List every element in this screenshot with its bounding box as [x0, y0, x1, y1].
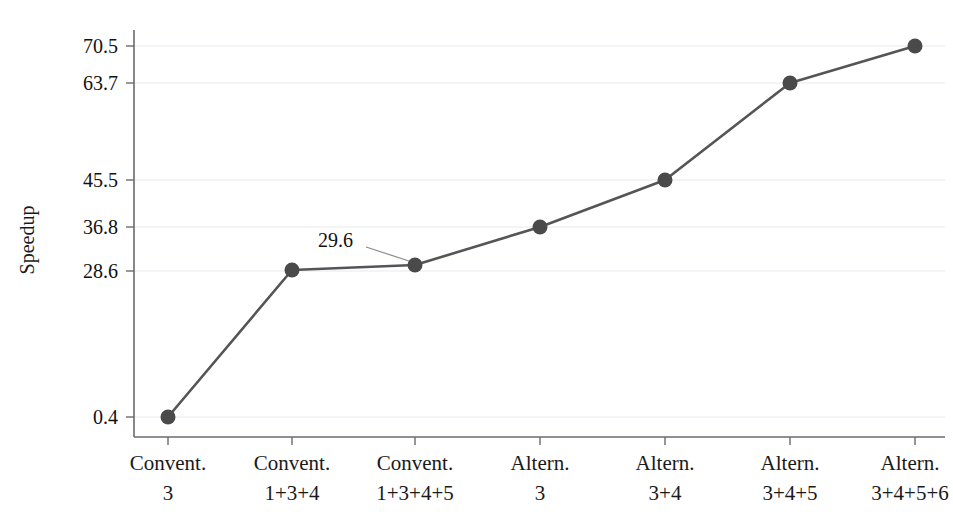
data-point-1[interactable] [285, 263, 300, 278]
x-label-4-line2: 3+4 [649, 481, 682, 505]
x-label-0-line2: 3 [163, 481, 174, 505]
chart-figure: 70.5 63.7 45.5 36.8 28.6 0.4 Speedup 29.… [0, 0, 953, 523]
chart-background [0, 0, 953, 523]
x-label-3-line1: Altern. [511, 451, 570, 475]
data-point-2[interactable] [408, 258, 423, 273]
data-point-0[interactable] [161, 410, 176, 425]
x-label-2-line2: 1+3+4+5 [376, 481, 454, 505]
y-tick-label-1: 63.7 [83, 72, 118, 94]
x-label-1-line2: 1+3+4 [264, 481, 320, 505]
data-point-3[interactable] [533, 220, 548, 235]
x-label-2-line1: Convent. [377, 451, 453, 475]
x-label-5-line1: Altern. [761, 451, 820, 475]
data-point-5[interactable] [783, 76, 798, 91]
x-label-4-line1: Altern. [636, 451, 695, 475]
y-tick-label-4: 28.6 [83, 260, 118, 282]
y-tick-label-3: 36.8 [83, 216, 118, 238]
annotation-label-29-6: 29.6 [318, 229, 353, 251]
y-axis-title: Speedup [16, 206, 39, 275]
x-label-6-line1: Altern. [881, 451, 940, 475]
x-label-5-line2: 3+4+5 [762, 481, 817, 505]
data-point-4[interactable] [658, 173, 673, 188]
y-tick-label-2: 45.5 [83, 169, 118, 191]
line-chart-canvas: 70.5 63.7 45.5 36.8 28.6 0.4 Speedup 29.… [0, 0, 953, 523]
x-label-1-line1: Convent. [254, 451, 330, 475]
x-label-3-line2: 3 [535, 481, 546, 505]
x-label-0-line1: Convent. [130, 451, 206, 475]
y-tick-label-5: 0.4 [93, 406, 118, 428]
x-label-6-line2: 3+4+5+6 [871, 481, 949, 505]
y-tick-label-0: 70.5 [83, 35, 118, 57]
data-point-6[interactable] [908, 39, 923, 54]
